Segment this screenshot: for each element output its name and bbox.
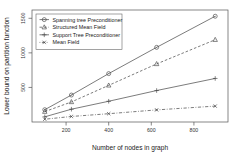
legend-label: Support Tree Preconditioner — [53, 32, 121, 38]
series-line — [45, 40, 215, 112]
legend-label: Structured Mean Field — [53, 24, 106, 30]
y-axis-title: Lower bound on partition function — [3, 17, 11, 115]
x-tick-label: 200 — [62, 127, 71, 133]
line-chart: 200400600800 50010001500 Number of nodes… — [0, 0, 240, 156]
data-point-plus — [154, 88, 159, 93]
series-line — [45, 78, 215, 116]
y-tick-label: 500 — [20, 83, 26, 92]
series-3 — [43, 104, 217, 121]
series-2 — [42, 76, 217, 119]
x-tick-label: 400 — [104, 127, 113, 133]
legend: Spanning tree PreconditionerStructured M… — [36, 14, 123, 49]
data-point-triangle — [213, 37, 217, 41]
y-axis: 50010001500 — [20, 12, 32, 91]
data-point-plus — [106, 99, 111, 104]
y-tick-label: 1000 — [20, 47, 26, 59]
legend-label: Mean Field — [53, 39, 80, 45]
y-tick-label: 1500 — [20, 12, 26, 24]
x-tick-label: 600 — [147, 127, 156, 133]
data-point-plus — [42, 115, 47, 120]
x-tick-label: 800 — [190, 127, 199, 133]
x-axis-title: Number of nodes in graph — [92, 144, 169, 152]
data-point-circle-dot — [155, 45, 159, 49]
legend-label: Spanning tree Preconditioner — [53, 17, 123, 23]
data-point-circle-dot — [107, 72, 111, 76]
data-point-plus — [69, 107, 74, 112]
data-point-plus — [213, 76, 218, 81]
chart-container: 200400600800 50010001500 Number of nodes… — [0, 0, 240, 156]
data-point-circle-dot — [213, 14, 217, 18]
data-point-circle-dot — [69, 93, 73, 97]
x-axis: 200400600800 — [62, 122, 199, 133]
